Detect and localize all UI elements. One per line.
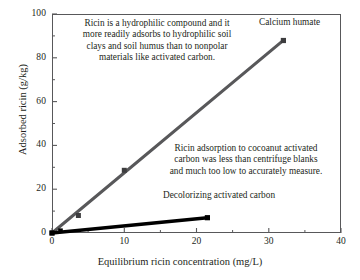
series-label-calcium-humate: Calcium humate [259, 17, 320, 27]
annotation-hydrophilic-note: Ricin is a hydrophilic compound and it m… [58, 18, 256, 63]
series-label-decolorizing-activated-carbon: Decolorizing activated carbon [163, 190, 275, 200]
series-calcium-humate-line [52, 40, 283, 233]
series-decolorizing-line [52, 218, 207, 233]
series-calcium-humate [50, 38, 286, 236]
y-tick-label-100: 100 [18, 8, 46, 18]
data-point-marker [281, 38, 286, 43]
x-axis-title: Equilibrium ricin concentration (mg/L) [0, 256, 360, 267]
x-tick-label-0: 0 [37, 236, 67, 246]
data-point-marker [76, 213, 81, 218]
x-tick-label-20: 20 [182, 236, 212, 246]
chart-figure: 100 80 60 40 20 0 0 10 20 30 40 Equilibr… [0, 0, 360, 280]
annotation-cocoanut-note: Ricin adsorption to cocoanut activated c… [146, 143, 346, 177]
x-tick-label-10: 10 [109, 236, 139, 246]
x-tick-label-30: 30 [254, 236, 284, 246]
y-axis-title: Adsorbed ricin (g/kg) [17, 30, 28, 190]
series-decolorizing-activated-carbon [49, 215, 210, 235]
x-tick-label-40: 40 [326, 236, 356, 246]
y-axis-minor-ticks [52, 36, 55, 211]
data-point-marker [58, 228, 63, 233]
data-point-marker [122, 168, 127, 173]
data-point-marker [49, 230, 54, 235]
data-point-marker [205, 215, 210, 220]
